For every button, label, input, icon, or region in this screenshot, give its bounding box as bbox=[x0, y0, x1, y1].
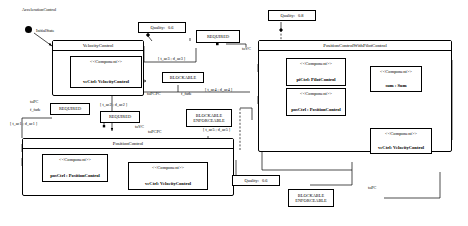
component-name: vcCtrl: VelocityControl bbox=[371, 145, 431, 150]
region-pcpc-title: PositionControlWithPilotControl bbox=[259, 41, 451, 51]
component-stereotype: <<Component>> bbox=[287, 91, 345, 96]
component-stereotype: <<Component>> bbox=[287, 61, 345, 66]
quality-annotation-bottom[interactable]: Quality: 0.6 bbox=[232, 175, 280, 186]
quality-label: Quality: bbox=[281, 13, 295, 18]
transition-label-t-ac2: [ t_ac2 ; d_ac2 ] bbox=[100, 103, 127, 107]
port-label-to-pcpc-top: toPCPC bbox=[147, 92, 161, 96]
component-pcpc-pictrl[interactable]: <<Component>> piCtrl: PilotControl bbox=[286, 58, 346, 86]
stereotype-box-required-mid[interactable]: REQUIRED bbox=[100, 111, 140, 123]
component-pc-posctrl[interactable]: <<Component>> posCtrl : PositionControl bbox=[42, 154, 108, 182]
transition-label-t-ac4: [ t_ac4 ; d_ac4 ] bbox=[205, 88, 232, 92]
stereotype-text: BLOCKABLE bbox=[170, 75, 196, 80]
component-stereotype: <<Component>> bbox=[129, 165, 207, 170]
region-position-control-title: PositionControl bbox=[23, 139, 233, 149]
stereotype-box-blockable-enforceable-bottom[interactable]: BLOCKABLE ENFORCEABLE bbox=[288, 189, 334, 207]
component-name: piCtrl: PilotControl bbox=[287, 77, 345, 82]
component-name: sum : Sum bbox=[371, 83, 421, 88]
stereotype-box-blockable-top[interactable]: BLOCKABLE bbox=[162, 72, 204, 83]
stereotype-text: REQUIRED bbox=[109, 114, 131, 119]
port-label-to-vc-mid: toVC bbox=[135, 125, 144, 129]
quality-annotation-top-right[interactable]: Quality: 0.8 bbox=[268, 10, 316, 21]
quality-annotation-top-left[interactable]: Quality: 0.6 bbox=[138, 22, 186, 33]
initial-state-node bbox=[25, 26, 32, 33]
port-label-f-fade-top: f_fade bbox=[181, 92, 192, 96]
component-name: vcCtrl: VelocityControl bbox=[129, 181, 207, 186]
region-velocity-control-title: VelocityControl bbox=[53, 41, 143, 51]
stereotype-text-line2: ENFORCEABLE bbox=[193, 118, 224, 123]
component-pcpc-vcctrl[interactable]: <<Component>> vcCtrl: VelocityControl bbox=[370, 128, 432, 154]
quality-value: 0.8 bbox=[298, 13, 304, 18]
component-stereotype: <<Component>> bbox=[371, 69, 421, 74]
component-stereotype: <<Component>> bbox=[43, 157, 107, 162]
quality-label: Quality: bbox=[151, 25, 165, 30]
stereotype-box-blockable-enforceable-mid[interactable]: BLOCKABLE ENFORCEABLE bbox=[186, 109, 232, 127]
port-label-to-pcpc-mid: toPCPC bbox=[148, 130, 162, 134]
port-label-f-fade-left: f_fade bbox=[30, 108, 41, 112]
component-pcpc-sum[interactable]: <<Component>> sum : Sum bbox=[370, 66, 422, 92]
transition-label-t-ac5: [ t_ac5 ; d_ac5 ] bbox=[203, 128, 230, 132]
component-name: vcCtrl: VelocityControl bbox=[71, 79, 141, 84]
quality-label: Quality: bbox=[245, 178, 259, 183]
component-pc-vcctrl[interactable]: <<Component>> vcCtrl: VelocityControl bbox=[128, 162, 208, 190]
quality-value: 0.6 bbox=[262, 178, 268, 183]
component-name: posCtrl : PositionControl bbox=[287, 107, 345, 112]
port-label-to-pc-bottom: toPC bbox=[368, 186, 376, 190]
stereotype-box-required-left[interactable]: REQUIRED bbox=[50, 103, 90, 115]
transition-label-t-ac1: [ t_ac1 ; d_ac1 ] bbox=[10, 122, 37, 126]
component-stereotype: <<Component>> bbox=[71, 59, 141, 64]
stereotype-box-required-top[interactable]: REQUIRED bbox=[196, 30, 240, 43]
component-name: posCtrl : PositionControl bbox=[43, 173, 107, 178]
component-vc-vcctrl[interactable]: <<Component>> vcCtrl: VelocityControl bbox=[70, 56, 142, 88]
quality-value: 0.6 bbox=[168, 25, 174, 30]
stereotype-text-line2: ENFORCEABLE bbox=[295, 198, 326, 203]
port-label-to-pc: toPC bbox=[30, 100, 38, 104]
component-pcpc-posctrl[interactable]: <<Component>> posCtrl : PositionControl bbox=[286, 88, 346, 116]
component-stereotype: <<Component>> bbox=[371, 131, 431, 136]
port-label-to-vc-top: toVC bbox=[242, 47, 251, 51]
diagram-title: AccelerationControl bbox=[22, 8, 56, 12]
stereotype-text: REQUIRED bbox=[59, 106, 81, 111]
diagram-canvas: AccelerationControl InitialState Velocit… bbox=[0, 0, 468, 226]
stereotype-text: REQUIRED bbox=[207, 34, 229, 39]
transition-label-t-ac3: [ t_ac3 ; d_ac3 ] bbox=[158, 57, 185, 61]
initial-state-label: InitialState bbox=[36, 29, 54, 33]
